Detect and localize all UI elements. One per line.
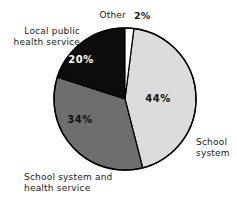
pie-value-school-system: 44% [138,93,178,104]
pie-label-local-public-line2: health service [14,37,80,47]
pie-label-school-system-line2: system [196,148,230,158]
pie-value-local-public-health-service: 20% [61,54,101,65]
pie-label-school-health-line2: health service [24,183,90,193]
pie-label-local-public-line1: Local public [24,26,80,36]
pie-label-school-health-line1: School system and [24,172,112,182]
pie-value-other: 2% [134,10,164,21]
pie-chart-figure: Other 2% Local publichealth service Scho… [0,0,237,199]
pie-label-school-system-and-health-service: School system andhealth service [24,172,144,194]
pie-value-school-system-and-health-service: 34% [60,114,100,125]
pie-label-school-system: Schoolsystem [196,137,236,159]
pie-label-local-public-health-service: Local publichealth service [2,26,80,48]
pie-label-school-system-line1: School [196,137,227,147]
pie-label-other: Other [86,10,126,21]
